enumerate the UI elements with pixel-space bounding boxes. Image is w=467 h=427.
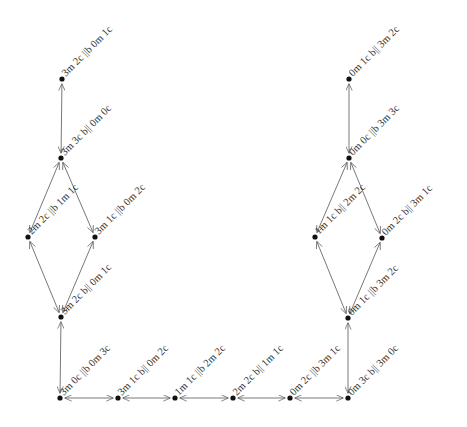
bidirectional-edge	[60, 322, 61, 393]
node-label: 2m 2c b|| 1m 1c	[230, 342, 285, 397]
state-node: 3m 3c b|| 0m 0c	[58, 102, 113, 160]
node-dot	[57, 395, 62, 400]
nodes-layer: 3m 2c ||b 0m 1c3m 3c b|| 0m 0c2m 2c ||b …	[25, 23, 434, 400]
node-dot	[287, 395, 292, 400]
state-node: 3m 2c ||b 0m 1c	[59, 23, 114, 81]
node-dot	[346, 76, 351, 81]
node-dot	[59, 76, 64, 81]
node-dot	[230, 395, 235, 400]
node-dot	[25, 234, 30, 239]
state-node: 0m 3c b|| 3m 0c	[345, 342, 400, 400]
node-label: 1m 1c b|| 2m 2c	[312, 181, 367, 236]
node-label: 3m 3c b|| 0m 0c	[58, 102, 113, 157]
state-node: 1m 1c ||b 2m 2c	[172, 342, 227, 400]
node-label: 3m 0c ||b 0m 3c	[57, 342, 112, 397]
node-label: 0m 1c ||b 3m 2c	[345, 262, 400, 317]
node-dot	[345, 315, 350, 320]
node-label: 0m 3c b|| 3m 0c	[345, 342, 400, 397]
node-dot	[58, 314, 63, 319]
node-dot	[172, 395, 177, 400]
node-label: 0m 2c ||b 3m 1c	[287, 342, 342, 397]
node-dot	[345, 395, 350, 400]
state-node: 1m 1c b|| 2m 2c	[312, 181, 367, 239]
bidirectional-edge	[317, 242, 346, 314]
node-label: 2m 2c ||b 1m 1c	[25, 181, 80, 236]
state-node: 0m 2c b|| 3m 1c	[379, 182, 434, 240]
node-label: 3m 2c b|| 0m 1c	[58, 261, 113, 316]
node-label: 3m 1c b|| 0m 2c	[115, 342, 170, 397]
state-node: 0m 2c ||b 3m 1c	[287, 342, 342, 400]
node-dot	[312, 234, 317, 239]
node-label: 0m 1c b|| 3m 2c	[346, 23, 401, 78]
node-label: 3m 1c ||b 0m 2c	[92, 181, 147, 236]
bidirectional-edge	[61, 84, 62, 153]
bidirectional-edge	[30, 242, 59, 313]
state-node: 2m 2c ||b 1m 1c	[25, 181, 80, 239]
node-dot	[58, 155, 63, 160]
node-label: 3m 2c ||b 0m 1c	[59, 23, 114, 78]
state-node: 3m 1c ||b 0m 2c	[92, 181, 147, 239]
node-label: 0m 0c ||b 3m 3c	[346, 102, 401, 157]
state-diagram: 3m 2c ||b 0m 1c3m 3c b|| 0m 0c2m 2c ||b …	[0, 0, 467, 427]
state-node: 2m 2c b|| 1m 1c	[230, 342, 285, 400]
node-label: 1m 1c ||b 2m 2c	[172, 342, 227, 397]
node-dot	[92, 234, 97, 239]
state-node: 0m 1c ||b 3m 2c	[345, 262, 400, 320]
state-node: 0m 1c b|| 3m 2c	[346, 23, 401, 81]
state-node: 0m 0c ||b 3m 3c	[346, 102, 401, 160]
state-node: 3m 0c ||b 0m 3c	[57, 342, 112, 400]
node-dot	[379, 235, 384, 240]
node-label: 0m 2c b|| 3m 1c	[379, 182, 434, 237]
node-dot	[346, 155, 351, 160]
node-dot	[115, 395, 120, 400]
state-node: 3m 1c b|| 0m 2c	[115, 342, 170, 400]
state-node: 3m 2c b|| 0m 1c	[58, 261, 113, 319]
